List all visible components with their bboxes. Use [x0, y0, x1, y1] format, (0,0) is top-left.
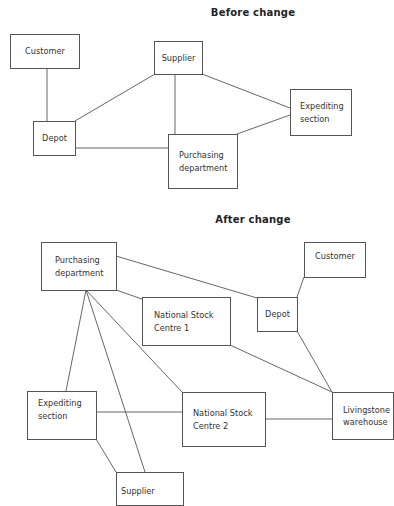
after-change-title: After change [215, 214, 290, 225]
node-label: National Stock Centre 1 [154, 309, 213, 334]
node-supplier-before: Supplier [154, 41, 203, 75]
link-expediting-supplier [96, 439, 116, 472]
node-label: Depot [265, 308, 290, 321]
link-expediting-purchasing [237, 115, 290, 134]
node-label: Customer [315, 250, 355, 263]
link-purchasing-expediting [66, 290, 86, 391]
node-label: Expediting section [38, 397, 82, 422]
node-label: Customer [25, 45, 65, 58]
node-nsc1: National Stock Centre 1 [142, 297, 231, 346]
node-purchasing-after: Purchasing department [41, 242, 117, 291]
node-label: Supplier [121, 485, 155, 498]
link-customer-depot-2 [297, 277, 304, 297]
before-change-title: Before change [211, 7, 295, 18]
link-purchasing-supplier [86, 290, 145, 472]
node-label: Supplier [162, 52, 196, 65]
node-customer-after: Customer [304, 242, 366, 278]
node-depot-before: Depot [33, 121, 76, 156]
node-label: Depot [42, 132, 67, 145]
node-label: Purchasing department [55, 254, 103, 279]
link-purchasing-depot [116, 256, 257, 298]
node-nsc2: National Stock Centre 2 [182, 392, 266, 447]
node-label: Livingstone warehouse [343, 404, 390, 429]
node-label: Expediting section [300, 100, 344, 125]
node-expediting-after: Expediting section [27, 391, 97, 440]
node-customer-before: Customer [10, 34, 80, 69]
node-livingstone-warehouse: Livingstone warehouse [332, 392, 394, 440]
node-label: National Stock Centre 2 [193, 407, 252, 432]
link-depot-livingstone [297, 331, 332, 392]
link-supplier-expediting [202, 74, 290, 108]
node-label: Purchasing department [179, 149, 227, 174]
node-purchasing-before: Purchasing department [168, 134, 238, 189]
link-supplier-depot [75, 74, 155, 121]
link-nsc1-livingstone [230, 345, 332, 392]
link-purchasing-nsc1 [116, 290, 142, 299]
node-depot-after: Depot [257, 297, 298, 332]
node-supplier-after: Supplier [116, 472, 184, 506]
node-expediting-before: Expediting section [290, 89, 352, 136]
